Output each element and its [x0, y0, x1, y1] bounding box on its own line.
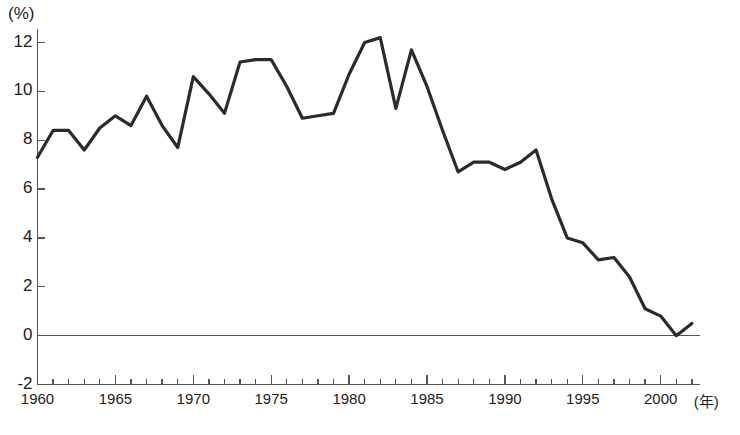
data-series-line — [38, 38, 692, 336]
y-tick-label: 8 — [23, 129, 32, 149]
x-tick-label: 1985 — [403, 390, 451, 407]
x-tick-label: 1975 — [247, 390, 295, 407]
y-tick-label: 2 — [23, 276, 32, 296]
y-tick-label: 4 — [23, 227, 32, 247]
x-tick-label: 2000 — [637, 390, 685, 407]
chart-figure: (%) -2024681012 196019651970197519801985… — [0, 0, 740, 435]
x-tick-label: 1965 — [91, 390, 139, 407]
x-tick-label: 1990 — [481, 390, 529, 407]
x-axis-unit-label: (年) — [694, 390, 719, 411]
x-tick-label: 1960 — [14, 390, 62, 407]
line-chart-plot — [0, 0, 740, 435]
caption-strip — [0, 427, 740, 435]
x-tick-label: 1970 — [169, 390, 217, 407]
y-tick-label: 12 — [14, 32, 33, 52]
x-tick-label: 1980 — [325, 390, 373, 407]
axes-group — [38, 29, 700, 385]
y-tick-label: 10 — [14, 80, 33, 100]
x-tick-label: 1995 — [559, 390, 607, 407]
y-tick-label: 0 — [23, 325, 32, 345]
y-tick-label: 6 — [23, 178, 32, 198]
tick-marks-group — [38, 43, 692, 385]
